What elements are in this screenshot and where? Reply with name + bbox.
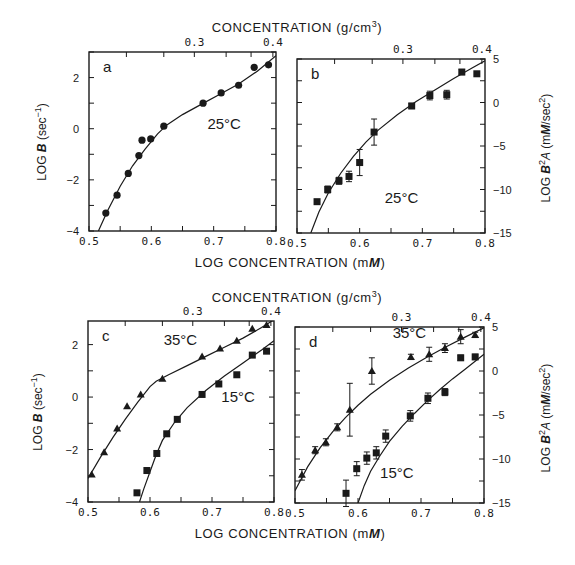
data-point — [371, 129, 378, 136]
plot-frame — [89, 52, 276, 231]
y-tick-label: −15 — [493, 227, 512, 239]
fit-curve — [140, 341, 275, 502]
data-point — [138, 137, 145, 144]
data-point — [265, 61, 272, 68]
data-point — [311, 446, 319, 453]
top-tick-label: 0.4 — [471, 311, 491, 324]
data-point — [346, 173, 353, 180]
data-point — [102, 210, 109, 217]
data-point — [407, 412, 414, 419]
temperature-annotation: 15°C — [221, 388, 255, 405]
data-point — [113, 192, 120, 199]
top-tick-label: 0.3 — [393, 43, 413, 56]
y-tick-label: 0 — [73, 123, 79, 135]
panel-b-plot: 0.50.60.70.80.30.4−15−10−505b25°C — [287, 43, 512, 250]
data-point — [382, 433, 389, 440]
x-tick-label: 0.6 — [348, 507, 368, 520]
temperature-annotation: 25°C — [207, 115, 241, 132]
y-tick-label: 5 — [492, 321, 498, 333]
y-tick-label: −4 — [65, 496, 78, 508]
panel-letter: b — [311, 65, 319, 82]
x-tick-label: 0.7 — [202, 506, 222, 519]
y-tick-label: 0 — [492, 365, 498, 377]
right-axis-title-lower: LOG B2A (mM/sec2) — [537, 364, 553, 473]
panel-a-plot: 0.50.60.70.80.30.4−4−202a25°C — [66, 36, 285, 248]
y-tick-label: −4 — [66, 225, 79, 237]
x-tick-label: 0.7 — [411, 507, 431, 520]
figure-canvas: CONCENTRATION (g/cm3) LOG CONCENTRATION … — [0, 0, 575, 565]
data-point — [198, 352, 206, 359]
y-tick-label: −5 — [492, 409, 505, 421]
data-point — [233, 371, 240, 378]
data-point — [153, 450, 160, 457]
temperature-annotation: 25°C — [385, 189, 419, 206]
y-tick-label: −2 — [66, 174, 79, 186]
data-point — [443, 91, 450, 98]
data-point — [457, 354, 464, 361]
left-axis-title-upper: LOG B (sec−1) — [33, 103, 49, 181]
y-tick-label: 2 — [72, 339, 78, 351]
data-point — [199, 391, 206, 398]
data-point — [88, 470, 96, 477]
data-point — [368, 367, 376, 374]
temperature-annotation: 35°C — [393, 324, 427, 341]
data-point — [353, 465, 360, 472]
bottom-axis-title-upper: LOG CONCENTRATION (mM) — [195, 255, 386, 270]
plot-frame — [88, 321, 274, 502]
y-tick-label: −15 — [492, 497, 511, 509]
fit-curve — [311, 61, 485, 233]
data-point — [235, 82, 242, 89]
top-tick-label: 0.3 — [184, 36, 204, 49]
x-tick-label: 0.6 — [141, 235, 161, 248]
x-tick-label: 0.8 — [264, 506, 284, 519]
data-point — [472, 353, 479, 360]
top-tick-label: 0.4 — [472, 43, 492, 56]
y-tick-label: 0 — [72, 391, 78, 403]
top-tick-label: 0.4 — [261, 305, 281, 318]
data-point — [218, 89, 225, 96]
top-tick-label: 0.3 — [183, 305, 203, 318]
bottom-axis-title-lower: LOG CONCENTRATION (mM) — [195, 526, 386, 541]
panel-letter: d — [309, 333, 317, 350]
top-axis-title-upper: CONCENTRATION (g/cm3) — [212, 19, 382, 35]
data-point — [324, 186, 331, 193]
data-point — [123, 402, 131, 409]
y-tick-label: −10 — [493, 184, 512, 196]
data-point — [441, 344, 449, 351]
data-point — [215, 380, 222, 387]
y-tick-label: −2 — [65, 444, 78, 456]
data-point — [457, 333, 465, 340]
plot-frame — [297, 59, 485, 233]
panel-letter: c — [102, 327, 110, 344]
data-point — [158, 375, 166, 382]
data-point — [426, 92, 433, 99]
data-point — [458, 69, 465, 76]
data-point — [133, 489, 140, 496]
data-point — [322, 438, 330, 445]
data-point — [100, 448, 108, 455]
data-point — [314, 198, 321, 205]
panel-c-plot: 0.50.60.70.80.30.4−4−202c35°C15°C — [65, 305, 283, 519]
data-point — [373, 449, 380, 456]
temperature-annotation: 35°C — [164, 331, 198, 348]
top-tick-label: 0.3 — [392, 311, 412, 324]
y-tick-label: −5 — [493, 140, 506, 152]
data-point — [335, 177, 342, 184]
right-axis-title-upper: LOG B2A (mM/sec2) — [537, 94, 553, 203]
x-tick-label: 0.5 — [285, 507, 305, 520]
x-tick-label: 0.8 — [266, 235, 286, 248]
x-tick-label: 0.8 — [474, 507, 494, 520]
data-point — [424, 395, 431, 402]
x-tick-label: 0.5 — [78, 506, 98, 519]
data-point — [356, 159, 363, 166]
fit-curve — [98, 56, 276, 231]
temperature-annotation: 15°C — [380, 464, 414, 481]
y-tick-label: 2 — [73, 72, 79, 84]
data-point — [125, 170, 132, 177]
data-point — [363, 455, 370, 462]
left-axis-title-lower: LOG B (sec−1) — [29, 373, 45, 451]
panel-d-plot: 0.50.60.70.80.30.4−15−10−505d35°C15°C — [285, 311, 511, 520]
data-point — [163, 430, 170, 437]
data-point — [263, 348, 270, 355]
x-tick-label: 0.6 — [140, 506, 160, 519]
